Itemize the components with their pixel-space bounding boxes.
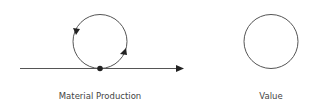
cycle-circle — [73, 15, 127, 69]
material-production-diagram — [20, 15, 184, 73]
value-diagram — [244, 15, 298, 69]
arrow-right-icon — [176, 65, 184, 72]
value-label: Value — [259, 91, 282, 101]
cycle-arrow-right-icon — [120, 48, 127, 55]
contact-dot — [97, 66, 103, 72]
material-production-label: Material Production — [59, 91, 141, 101]
value-circle — [244, 15, 298, 69]
